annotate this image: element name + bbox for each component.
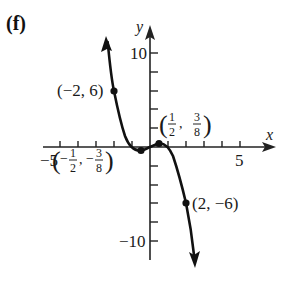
panel-label: (f) xyxy=(6,12,26,35)
svg-text:8: 8 xyxy=(194,125,200,139)
x-tick-label-5: 5 xyxy=(235,151,244,170)
point-half-3eighths xyxy=(155,140,162,147)
label-point-2-neg6: (2, −6) xyxy=(192,194,238,213)
label-point-neghalf-neg3eighths: ( − 1 2 , − 3 8 ) xyxy=(52,146,114,175)
label-point-half-3eighths: ( 1 2 , 3 8 ) xyxy=(159,110,212,139)
svg-text:3: 3 xyxy=(96,146,102,160)
curve-top-arrow-icon xyxy=(101,36,112,52)
x-axis-label: x xyxy=(265,126,273,143)
y-tick-label-10: 10 xyxy=(130,44,147,63)
svg-text:2: 2 xyxy=(169,125,175,139)
svg-text:2: 2 xyxy=(70,161,76,175)
svg-text:1: 1 xyxy=(169,110,175,124)
svg-text:3: 3 xyxy=(194,110,200,124)
svg-text:−: − xyxy=(86,151,94,166)
svg-text:,: , xyxy=(179,116,183,131)
cubic-graph: (f) x −5 5 xyxy=(0,0,290,284)
point-2-neg6 xyxy=(182,199,189,206)
label-point-neg2-6: (−2, 6) xyxy=(57,81,103,100)
cubic-curve xyxy=(108,42,194,255)
svg-text:): ) xyxy=(105,146,114,175)
svg-text:8: 8 xyxy=(96,161,102,175)
svg-text:): ) xyxy=(203,110,212,139)
svg-text:−: − xyxy=(60,151,68,166)
svg-text:,: , xyxy=(79,152,83,167)
y-axis-label: y xyxy=(134,18,144,36)
svg-text:(: ( xyxy=(159,110,168,139)
point-neg2-6 xyxy=(110,87,117,94)
point-neghalf-neg3eighths xyxy=(137,147,144,154)
y-tick-label-neg10: −10 xyxy=(119,232,146,251)
svg-text:1: 1 xyxy=(70,146,76,160)
